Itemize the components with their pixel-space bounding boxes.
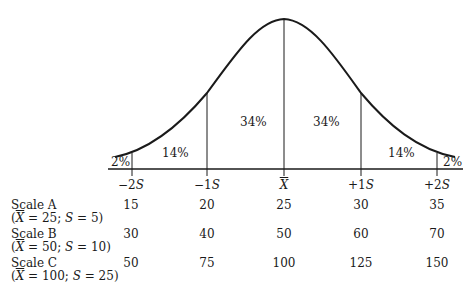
scale-value: 35 [429,199,444,212]
scale-value: 100 [273,257,296,270]
pct-left-outer: 14% [162,147,189,160]
scale-value: 150 [426,257,449,270]
scale-value: 50 [276,228,291,241]
pct-tail-right: 2% [443,156,462,169]
scale-value: 75 [199,257,214,270]
scale-value: 50 [123,257,138,270]
tick-mean: X [280,179,289,192]
tick-plus-1s: +1S [348,179,374,192]
bell-curve [115,19,455,157]
pct-tail-left: 2% [111,156,130,169]
scale-params: (X = 25; S = 5) [11,212,103,225]
scale-params: (X = 100; S = 25) [11,270,119,283]
scale-value: 40 [199,228,214,241]
pct-left-inner: 34% [240,116,267,129]
scale-value: 20 [199,199,214,212]
scale-value: 60 [353,228,368,241]
tick-minus-2s: −2S [118,179,144,192]
scale-value: 30 [123,228,138,241]
tick-minus-1s: −1S [194,179,220,192]
scale-params: (X = 50; S = 10) [11,241,111,254]
scale-value: 70 [429,228,444,241]
tick-plus-2s: +2S [424,179,450,192]
scale-value: 15 [123,199,138,212]
pct-right-inner: 34% [313,116,340,129]
scale-value: 30 [353,199,368,212]
scale-value: 25 [276,199,291,212]
scale-value: 125 [350,257,373,270]
pct-right-outer: 14% [388,147,415,160]
